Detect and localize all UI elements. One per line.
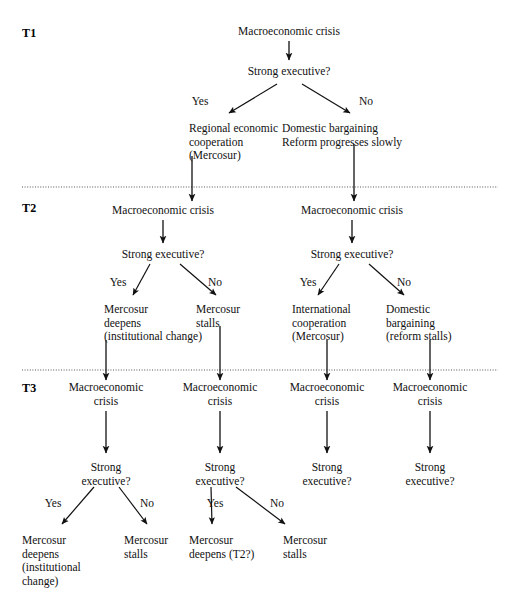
period-label-t2: T2 <box>22 201 36 216</box>
arrow-a-t2-yes-r <box>318 264 339 295</box>
node-t3-out-2: Mercosur stalls <box>124 534 168 561</box>
branch-label-t2-no-l: No <box>208 276 222 289</box>
node-t2-question-l: Strong executive? <box>122 248 205 262</box>
period-label-t1: T1 <box>22 26 36 41</box>
node-t3-question-1: Strong executive? <box>81 461 130 488</box>
branch-label-t3-yes-2: Yes <box>207 497 224 510</box>
node-t2-crisis-l: Macroeconomic crisis <box>112 204 214 218</box>
node-t3-question-3: Strong executive? <box>302 461 351 488</box>
node-t3-question-4: Strong executive? <box>405 461 454 488</box>
node-t3-question-2: Strong executive? <box>195 461 244 488</box>
arrow-a-t3-yes-1 <box>62 487 94 524</box>
node-t2-out-rr: Domestic bargaining (reform stalls) <box>386 303 451 344</box>
node-t3-out-4: Mercosur stalls <box>283 534 327 561</box>
node-t3-crisis-1: Macroeconomic crisis <box>69 381 144 408</box>
branch-label-t3-no-1: No <box>140 497 154 510</box>
branch-label-t1-no: No <box>359 95 373 108</box>
node-t3-out-3: Mercosur deepens (T2?) <box>189 534 254 561</box>
arrow-a-t2-yes-l <box>133 264 150 295</box>
branch-label-t1-yes: Yes <box>192 95 209 108</box>
arrow-a-t1-question-no <box>302 84 350 113</box>
node-t2-out-lr: Mercosur stalls <box>196 303 240 330</box>
node-t1-question: Strong executive? <box>248 65 331 79</box>
node-t2-out-rl: International cooperation (Mercosur) <box>292 303 351 344</box>
branch-label-t3-yes-1: Yes <box>45 497 62 510</box>
branch-label-t2-no-r: No <box>397 276 411 289</box>
period-label-t3: T3 <box>22 381 36 396</box>
node-t1-no-out: Domestic bargaining Reform progresses sl… <box>282 122 402 149</box>
branch-label-t2-yes-l: Yes <box>110 276 127 289</box>
branch-label-t2-yes-r: Yes <box>300 276 317 289</box>
decision-tree-figure: T1T2T3 Macroeconomic crisisStrong execut… <box>0 0 507 610</box>
node-t3-crisis-3: Macroeconomic crisis <box>290 381 365 408</box>
branch-label-t3-no-2: No <box>270 497 284 510</box>
node-t2-question-r: Strong executive? <box>311 248 394 262</box>
arrow-a-t1-question-yes <box>229 84 277 113</box>
node-t1-yes-out: Regional economic cooperation (Mercosur) <box>189 122 278 163</box>
node-t3-out-1: Mercosur deepens (institutional change) <box>22 534 81 588</box>
node-t2-crisis-r: Macroeconomic crisis <box>301 204 403 218</box>
node-t1-crisis: Macroeconomic crisis <box>238 25 340 39</box>
node-t2-out-ll: Mercosur deepens (institutional change) <box>104 303 202 344</box>
node-t3-crisis-4: Macroeconomic crisis <box>393 381 468 408</box>
node-t3-crisis-2: Macroeconomic crisis <box>183 381 258 408</box>
